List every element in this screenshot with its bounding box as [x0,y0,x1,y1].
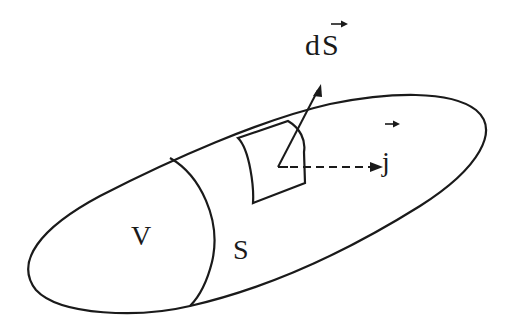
current-density-label: j [382,148,390,176]
surface-element-label: dS [305,30,341,60]
j-vector-arrow-icon [385,121,400,128]
closed-surface-outline [28,95,486,313]
cross-section-curve [170,158,214,306]
volume-label: V [131,222,151,250]
diagram-canvas: dS j V S [0,0,516,326]
surface-label: S [233,236,249,264]
diagram-drawing [0,0,516,326]
normal-vector-arrowhead-icon [313,84,322,97]
dS-vector-arrow-icon [331,21,348,28]
